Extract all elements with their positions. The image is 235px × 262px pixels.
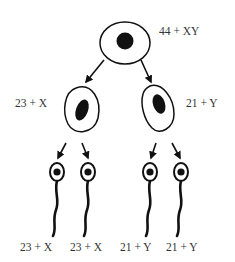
secondary-cell-right [142,85,174,131]
parent-nucleus [117,33,134,50]
secondary-cell-right-label: 21 + Y [186,98,218,110]
gamete-4-label: 21 + Y [166,242,198,254]
meiosis-diagram [0,0,235,262]
secondary-cell-left-label: 23 + X [15,98,47,110]
gamete-3-label: 21 + Y [120,242,152,254]
gamete-4 [174,163,188,236]
gamete-1 [50,163,64,236]
gamete-2-label: 23 + X [70,242,102,254]
secondary-cell-left [65,87,99,132]
parent-cell-label: 44 + XY [159,26,199,38]
gamete-3 [143,163,157,236]
gamete-1-label: 23 + X [20,242,52,254]
gamete-2 [81,163,95,236]
division-arrows-2 [58,143,180,158]
parent-cell [100,22,150,64]
